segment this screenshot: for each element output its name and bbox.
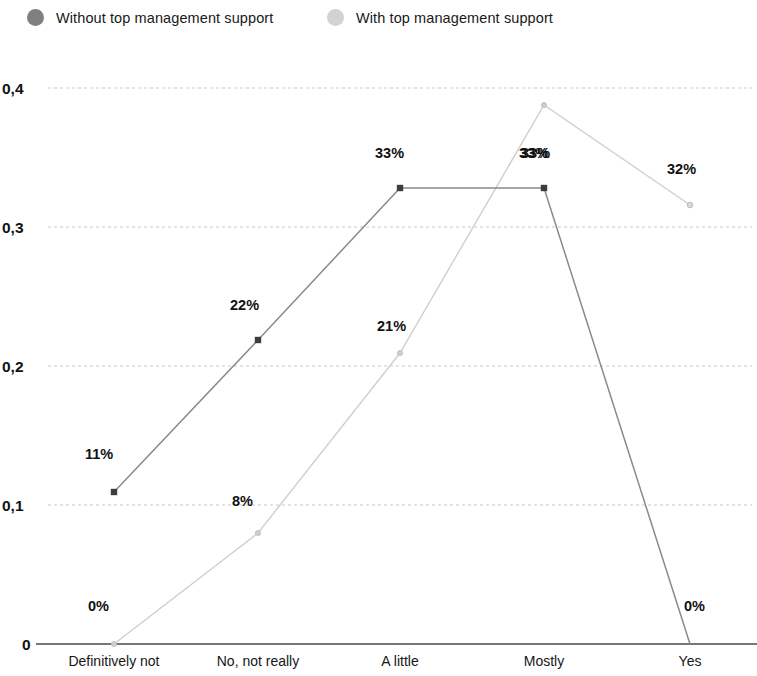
data-point	[541, 185, 547, 191]
data-point	[397, 350, 402, 355]
data-label: 0%	[88, 598, 109, 614]
y-axis-tick-labels: 0,4 0,3 0,2 0,1 0	[2, 80, 31, 653]
x-tick-label: No, not really	[217, 653, 299, 669]
data-point	[111, 489, 117, 495]
series-points-without-support	[111, 185, 547, 495]
y-tick-label: 0,4	[2, 80, 24, 97]
data-label: 32%	[667, 161, 696, 177]
legend-dot-light-icon	[327, 9, 344, 26]
legend-item-without-support: Without top management support	[27, 9, 273, 26]
legend-item-with-support: With top management support	[327, 9, 553, 26]
legend-label-with-support: With top management support	[356, 10, 553, 26]
x-tick-label: Definitively not	[68, 653, 159, 669]
data-point	[255, 530, 260, 535]
chart-legend: Without top management support With top …	[0, 0, 757, 44]
data-label: 33%	[375, 145, 404, 161]
x-axis-tick-labels: Definitively not No, not really A little…	[68, 653, 701, 669]
line-chart: 0,4 0,3 0,2 0,1 0 11% 22% 33% 3	[0, 44, 757, 676]
data-label: 33%	[521, 145, 550, 161]
y-tick-label: 0	[22, 636, 31, 653]
data-point	[397, 185, 403, 191]
data-labels-without-support: 11% 22% 33% 33% 0%	[85, 145, 705, 614]
legend-label-without-support: Without top management support	[56, 10, 273, 26]
data-label: 11%	[85, 446, 113, 462]
data-label: 21%	[377, 318, 406, 334]
series-points-with-support	[111, 102, 692, 646]
chart-canvas: 0,4 0,3 0,2 0,1 0 11% 22% 33% 3	[0, 44, 757, 676]
legend-dot-dark-icon	[27, 9, 44, 26]
x-tick-label: A little	[381, 653, 419, 669]
data-label: 0%	[684, 598, 705, 614]
data-point	[541, 102, 546, 107]
y-tick-label: 0,3	[2, 219, 24, 236]
data-point	[255, 337, 261, 343]
series-line-without-support	[114, 188, 690, 644]
data-label: 8%	[232, 493, 253, 509]
x-tick-label: Mostly	[524, 653, 564, 669]
data-label: 22%	[230, 297, 259, 313]
y-tick-label: 0,2	[2, 358, 24, 375]
y-tick-label: 0,1	[2, 497, 24, 514]
data-point	[111, 641, 116, 646]
x-tick-label: Yes	[679, 653, 702, 669]
data-point	[687, 202, 693, 208]
